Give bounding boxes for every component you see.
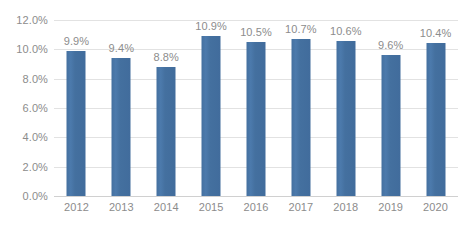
y-axis-tick-label: 12.0% bbox=[0, 15, 48, 26]
bar-data-label: 10.4% bbox=[420, 28, 452, 39]
bar[interactable] bbox=[112, 58, 131, 196]
bar[interactable] bbox=[67, 51, 86, 196]
bar-group: 9.6% bbox=[368, 20, 413, 196]
bar-data-label: 10.9% bbox=[195, 21, 227, 32]
bar-data-label: 10.5% bbox=[240, 27, 272, 38]
y-axis-tick-label: 2.0% bbox=[0, 161, 48, 172]
y-axis-tick-label: 0.0% bbox=[0, 191, 48, 202]
x-axis-tick-label: 2016 bbox=[244, 202, 269, 213]
x-axis-tick-label: 2013 bbox=[109, 202, 134, 213]
x-axis-tick-label: 2015 bbox=[199, 202, 224, 213]
bar-group: 10.5% bbox=[234, 20, 279, 196]
y-axis-tick-label: 10.0% bbox=[0, 44, 48, 55]
gridline-00 bbox=[54, 196, 458, 197]
bar[interactable] bbox=[426, 43, 445, 196]
x-axis-tick-label: 2017 bbox=[288, 202, 313, 213]
bar-data-label: 8.8% bbox=[153, 52, 178, 63]
bar-chart: 0.0%2.0%4.0%6.0%8.0%10.0%12.0% 9.9%9.4%8… bbox=[0, 0, 466, 231]
bar-data-label: 9.9% bbox=[64, 36, 89, 47]
bar[interactable] bbox=[291, 39, 310, 196]
bar-group: 10.7% bbox=[278, 20, 323, 196]
bar[interactable] bbox=[246, 42, 265, 196]
y-axis: 0.0%2.0%4.0%6.0%8.0%10.0%12.0% bbox=[0, 20, 48, 196]
bar[interactable] bbox=[157, 67, 176, 196]
bar-data-label: 10.6% bbox=[330, 26, 362, 37]
bars-layer: 9.9%9.4%8.8%10.9%10.5%10.7%10.6%9.6%10.4… bbox=[54, 20, 458, 196]
x-axis-tick-label: 2012 bbox=[64, 202, 89, 213]
bar-group: 10.4% bbox=[413, 20, 458, 196]
x-axis: 201220132014201520162017201820192020 bbox=[54, 202, 458, 222]
y-axis-tick-label: 8.0% bbox=[0, 73, 48, 84]
bar-data-label: 9.4% bbox=[109, 43, 134, 54]
bar[interactable] bbox=[336, 41, 355, 196]
bar-group: 10.9% bbox=[189, 20, 234, 196]
bar-group: 9.4% bbox=[99, 20, 144, 196]
bar[interactable] bbox=[202, 36, 221, 196]
bar[interactable] bbox=[381, 55, 400, 196]
bar-group: 10.6% bbox=[323, 20, 368, 196]
x-axis-tick-label: 2014 bbox=[154, 202, 179, 213]
x-axis-tick-label: 2020 bbox=[423, 202, 448, 213]
x-axis-tick-label: 2019 bbox=[378, 202, 403, 213]
bar-group: 8.8% bbox=[144, 20, 189, 196]
bar-data-label: 9.6% bbox=[378, 40, 403, 51]
y-axis-tick-label: 6.0% bbox=[0, 103, 48, 114]
y-axis-tick-label: 4.0% bbox=[0, 132, 48, 143]
x-axis-tick-label: 2018 bbox=[333, 202, 358, 213]
bar-data-label: 10.7% bbox=[285, 24, 317, 35]
bar-group: 9.9% bbox=[54, 20, 99, 196]
